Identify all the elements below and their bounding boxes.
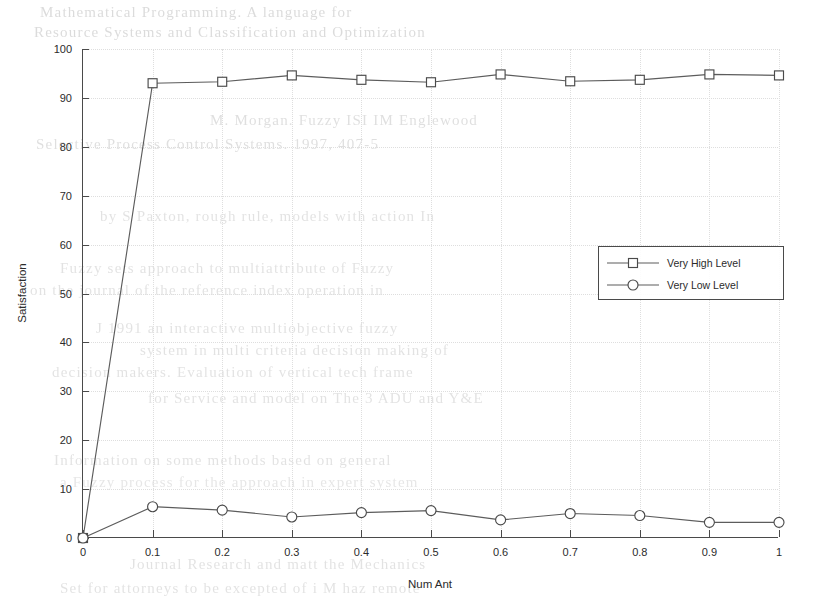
y-tick-label: 10 (60, 483, 72, 495)
y-axis-title: Satisfaction (16, 263, 28, 322)
series-very-high-level (79, 70, 784, 543)
x-tick-label: 0.8 (632, 546, 647, 558)
legend-label: Very High Level (667, 257, 741, 269)
x-tick-label: 0.9 (702, 546, 717, 558)
legend-entry: Very High Level (607, 252, 777, 274)
legend-entry: Very Low Level (607, 274, 777, 296)
data-point-marker (566, 77, 575, 86)
legend-marker-sample (607, 255, 659, 271)
x-tick-label: 0.6 (493, 546, 508, 558)
legend-square-marker-icon (629, 259, 638, 268)
data-point-marker (635, 75, 644, 84)
x-axis-title: Num Ant (82, 578, 778, 590)
x-tick-label: 0.1 (145, 546, 160, 558)
data-point-marker (565, 509, 575, 519)
series-line (83, 74, 779, 538)
figure-chart: 0102030405060708090100 00.10.20.30.40.50… (0, 0, 818, 611)
data-point-marker (357, 75, 366, 84)
x-tick-label: 0 (80, 546, 86, 558)
legend-circle-marker-icon (628, 280, 638, 290)
legend-marker-sample (607, 277, 659, 293)
y-tick-label: 90 (60, 92, 72, 104)
y-tick-label: 30 (60, 385, 72, 397)
data-point-marker (427, 78, 436, 87)
data-point-marker (496, 70, 505, 79)
data-point-marker (148, 502, 158, 512)
data-point-marker (426, 506, 436, 516)
data-point-marker (287, 71, 296, 80)
x-tick-label: 0.3 (284, 546, 299, 558)
x-tick-mark (779, 530, 780, 537)
series-very-low-level (78, 502, 784, 543)
data-point-marker (356, 508, 366, 518)
data-point-marker (635, 511, 645, 521)
x-tick-label: 0.7 (563, 546, 578, 558)
data-point-marker (774, 517, 784, 527)
y-tick-label: 80 (60, 141, 72, 153)
y-tick-label: 60 (60, 239, 72, 251)
y-tick-label: 40 (60, 336, 72, 348)
data-point-marker (705, 70, 714, 79)
y-tick-label: 50 (60, 288, 72, 300)
data-point-marker (287, 512, 297, 522)
data-point-marker (148, 79, 157, 88)
x-tick-label: 0.4 (354, 546, 369, 558)
y-tick-label: 70 (60, 190, 72, 202)
data-point-marker (496, 515, 506, 525)
x-tick-label: 0.5 (423, 546, 438, 558)
x-tick-label: 0.2 (215, 546, 230, 558)
data-point-marker (78, 533, 88, 543)
y-tick-label: 20 (60, 434, 72, 446)
chart-legend: Very High LevelVery Low Level (598, 246, 784, 300)
x-tick-label: 1 (776, 546, 782, 558)
data-point-marker (775, 71, 784, 80)
y-tick-label: 0 (66, 532, 72, 544)
data-point-marker (218, 77, 227, 86)
y-tick-label: 100 (54, 43, 72, 55)
data-point-marker (704, 517, 714, 527)
data-point-marker (217, 505, 227, 515)
legend-label: Very Low Level (667, 279, 738, 291)
